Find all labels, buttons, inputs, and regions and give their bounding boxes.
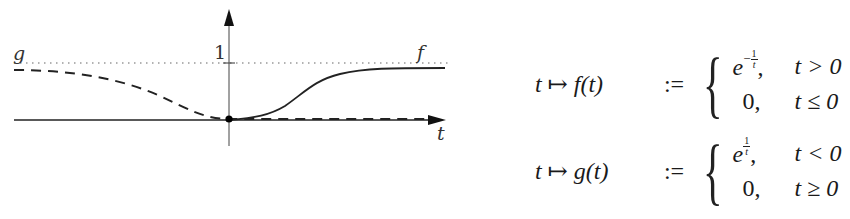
label-g: g xyxy=(13,44,25,63)
function-plot xyxy=(0,0,460,219)
definition-g-assign: := xyxy=(645,158,703,185)
definition-g-lhs: t ↦ g(t) xyxy=(535,157,645,185)
case-f-zero: 0, xyxy=(733,88,795,115)
label-f: f xyxy=(417,43,424,62)
curve-g xyxy=(14,70,430,119)
definition-g-cases: e1t, t < 0 0, t ≥ 0 xyxy=(733,140,842,201)
brace-icon: { xyxy=(703,134,723,208)
case-g-cond-nonnegative: t ≥ 0 xyxy=(795,175,842,202)
y-axis-arrow-icon xyxy=(224,9,234,26)
brace-icon: { xyxy=(703,47,723,121)
case-g-cond-negative: t < 0 xyxy=(795,140,842,168)
origin-point xyxy=(225,115,232,122)
definition-g: t ↦ g(t) := { e1t, t < 0 0, t ≥ 0 xyxy=(535,131,841,211)
case-f-cond-positive: t > 0 xyxy=(795,53,842,81)
case-g-zero: 0, xyxy=(733,175,795,202)
definition-f: t ↦ f(t) := { e−1t, t > 0 0, t ≤ 0 xyxy=(535,44,841,124)
case-g-exp: e1t, xyxy=(733,140,795,168)
case-f-cond-nonpositive: t ≤ 0 xyxy=(795,88,842,115)
definition-f-cases: e−1t, t > 0 0, t ≤ 0 xyxy=(733,53,842,114)
definition-f-assign: := xyxy=(645,71,703,98)
axis-label-t: t xyxy=(437,124,445,143)
curve-f xyxy=(229,68,445,120)
case-f-exp: e−1t, xyxy=(733,53,795,81)
definition-f-lhs: t ↦ f(t) xyxy=(535,70,645,98)
tick-label-one: 1 xyxy=(214,43,226,62)
